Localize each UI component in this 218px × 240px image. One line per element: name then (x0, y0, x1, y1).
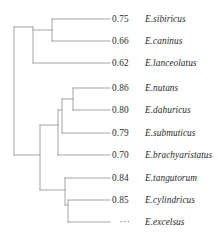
leaf-row: 0.62E.lanceolatus (112, 56, 197, 70)
support-value: 0.62 (112, 56, 138, 70)
taxon-name: E.brachyaristatus (145, 148, 212, 162)
support-value: 0.86 (112, 81, 138, 95)
support-value: 0.80 (112, 103, 138, 117)
support-value: 0.75 (112, 12, 138, 26)
taxon-name: E.tangutorum (145, 171, 197, 185)
leaf-row: 0.84E.tangutorum (112, 171, 197, 185)
taxon-name: E.excelsus (145, 215, 184, 229)
taxon-name: E.submuticus (145, 126, 195, 140)
support-value: 0.84 (112, 171, 138, 185)
leaf-row: 0.70E.brachyaristatus (112, 148, 212, 162)
leaf-row: 0.85E.cylindricus (112, 193, 195, 207)
phylogenetic-tree-figure: 0.75E.sibiricus0.66E.caninus0.62E.lanceo… (0, 0, 218, 240)
leaf-row: 0.79E.submuticus (112, 126, 195, 140)
leaf-row: 0.66E.caninus (112, 34, 182, 48)
support-value: 0.70 (112, 148, 138, 162)
support-value: 0.79 (112, 126, 138, 140)
leaf-label-list: 0.75E.sibiricus0.66E.caninus0.62E.lanceo… (0, 0, 218, 240)
leaf-row: 0.75E.sibiricus (112, 12, 186, 26)
taxon-name: E.sibiricus (145, 12, 186, 26)
taxon-name: E.dahuricus (145, 103, 191, 117)
taxon-name: E.caninus (145, 34, 182, 48)
taxon-name: E.nutans (145, 81, 178, 95)
support-value: 0.85 (112, 193, 138, 207)
leaf-row: 0.86E.nutans (112, 81, 178, 95)
leaf-row: ···E.excelsus (112, 215, 184, 229)
taxon-name: E.lanceolatus (145, 56, 197, 70)
support-value: 0.66 (112, 34, 138, 48)
support-value: ··· (112, 215, 138, 229)
taxon-name: E.cylindricus (145, 193, 195, 207)
leaf-row: 0.80E.dahuricus (112, 103, 191, 117)
